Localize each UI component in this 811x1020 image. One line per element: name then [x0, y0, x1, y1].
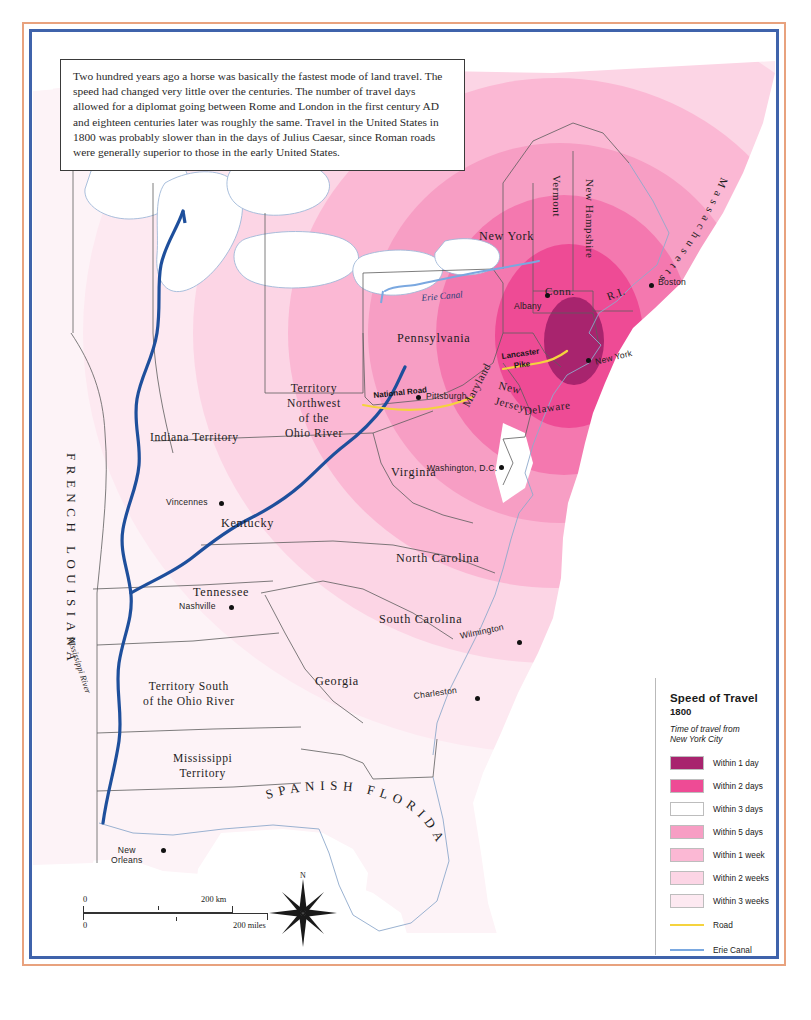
territory-label-south-ohio: Territory South of the Ohio River: [143, 679, 235, 709]
city-label-nashville: Nashville: [179, 601, 216, 611]
city-label-vincennes: Vincennes: [166, 497, 208, 507]
legend-swatch-1week: [670, 848, 704, 862]
svg-text:Massachusetts: Massachusetts: [654, 176, 730, 288]
legend-row-5days: Within 5 days: [670, 821, 767, 844]
state-label-north-carolina: North Carolina: [396, 551, 479, 566]
state-label-new-york: New York: [479, 229, 534, 244]
territory-label-northwest-ohio: Territory Northwest of the Ohio River: [285, 381, 343, 441]
city-label-new-orleans: New Orleans: [111, 845, 143, 865]
state-label-tennessee: Tennessee: [193, 585, 249, 600]
city-label-albany: Albany: [514, 301, 541, 311]
scale-mi-line: [83, 913, 268, 920]
city-dot-washington-dc: [499, 465, 504, 470]
city-dot-albany: [545, 293, 550, 298]
city-label-pittsburgh: Pittsburgh: [426, 391, 467, 401]
legend-swatch-1day: [670, 756, 704, 770]
legend-line-erie-canal: [670, 949, 704, 951]
legend-label-erie-canal: Erie Canal: [713, 945, 752, 955]
legend-label-5days: Within 5 days: [713, 827, 763, 837]
scale-km-max: 200 km: [201, 895, 226, 904]
legend-label-3weeks: Within 3 weeks: [713, 896, 769, 906]
legend-swatch-2days: [670, 779, 704, 793]
legend-label-road: Road: [713, 920, 733, 930]
legend-row-3weeks: Within 3 weeks: [670, 890, 767, 913]
legend-label-3days: Within 3 days: [713, 804, 763, 814]
scale-mi-max: 200 miles: [233, 921, 266, 930]
legend-label-2days: Within 2 days: [713, 781, 763, 791]
svg-text:SPANISH FLORIDA: SPANISH FLORIDA: [264, 778, 450, 849]
legend-row-road: Road: [670, 913, 767, 938]
city-dot-nashville: [229, 605, 234, 610]
scale-mi-zero: 0: [83, 921, 87, 930]
caption-box: Two hundred years ago a horse was basica…: [60, 59, 465, 171]
state-label-pennsylvania: Pennsylvania: [397, 331, 470, 346]
city-dot-boston: [649, 283, 654, 288]
legend-year: 1800: [670, 706, 767, 717]
legend-label-2weeks: Within 2 weeks: [713, 873, 769, 883]
scale-bar: 0 200 km 0 200 miles: [83, 895, 313, 932]
canal-line-icon: [670, 949, 704, 951]
legend-row-2days: Within 2 days: [670, 775, 767, 798]
territory-label-french-louisiana: FRENCH LOUISIANA: [63, 453, 79, 666]
legend-panel: Speed of Travel 1800 Time of travel from…: [655, 678, 775, 955]
state-label-south-carolina: South Carolina: [379, 611, 462, 628]
state-label-kentucky: Kentucky: [221, 516, 274, 531]
legend-line-road: [670, 924, 704, 926]
city-dot-charleston: [475, 696, 480, 701]
legend-swatch-5days: [670, 825, 704, 839]
city-dot-new-orleans: [161, 848, 166, 853]
road-line-icon: [670, 924, 704, 926]
map-page: New York Pennsylvania Virginia Kentucky …: [0, 0, 811, 1020]
city-label-boston: Boston: [658, 277, 686, 287]
legend-label-1week: Within 1 week: [713, 850, 765, 860]
legend-label-1day: Within 1 day: [713, 758, 759, 768]
city-dot-wilmington: [517, 640, 522, 645]
legend-subtitle: Time of travel from New York City: [670, 724, 767, 745]
state-label-new-hampshire: New Hampshire: [584, 179, 596, 259]
city-dot-new-york: [586, 358, 591, 363]
compass-north-label: N: [300, 871, 306, 880]
map-canvas[interactable]: New York Pennsylvania Virginia Kentucky …: [33, 33, 775, 955]
city-label-washington-dc: Washington, D.C.: [427, 463, 497, 473]
territory-label-indiana: Indiana Territory: [150, 430, 239, 445]
legend-swatch-3weeks: [670, 894, 704, 908]
caption-text: Two hundred years ago a horse was basica…: [73, 69, 452, 160]
city-dot-pittsburgh: [416, 395, 421, 400]
scale-km-zero: 0: [83, 895, 87, 904]
legend-row-2weeks: Within 2 weeks: [670, 867, 767, 890]
legend-swatch-3days: [670, 802, 704, 816]
state-label-vermont: Vermont: [551, 175, 563, 217]
city-dot-vincennes: [219, 501, 224, 506]
state-label-georgia: Georgia: [315, 674, 359, 689]
territory-label-mississippi: Mississippi Territory: [173, 751, 232, 781]
ohio-river-route: [183, 211, 185, 223]
legend-row-erie-canal: Erie Canal: [670, 938, 767, 955]
legend-title: Speed of Travel: [670, 692, 767, 705]
legend-row-1week: Within 1 week: [670, 844, 767, 867]
legend-swatch-2weeks: [670, 871, 704, 885]
legend-row-1day: Within 1 day: [670, 752, 767, 775]
legend-row-3days: Within 3 days: [670, 798, 767, 821]
scale-km-line: [83, 906, 233, 913]
